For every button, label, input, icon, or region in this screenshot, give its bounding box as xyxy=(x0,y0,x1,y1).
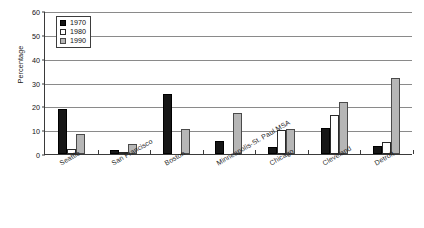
bar-chart: Percentage 0102030405060 197019801990 Se… xyxy=(0,0,424,228)
y-axis-title: Percentage xyxy=(16,20,25,110)
y-tick-label: 30 xyxy=(32,79,40,88)
bar-group xyxy=(203,12,256,154)
y-tick-label: 40 xyxy=(32,55,40,64)
legend-item[interactable]: 1970 xyxy=(60,19,86,27)
bar-1980 xyxy=(330,115,339,154)
legend-swatch-1990 xyxy=(60,38,66,44)
bar-group-bars xyxy=(203,12,256,154)
bar-1970 xyxy=(58,109,67,154)
y-tick-label: 50 xyxy=(32,31,40,40)
chart-legend: 197019801990 xyxy=(56,16,91,48)
legend-label-1970: 1970 xyxy=(70,19,86,27)
bar-1970 xyxy=(163,94,172,154)
bar-1970 xyxy=(215,141,224,154)
bar-group-bars xyxy=(360,12,413,154)
bar-1990 xyxy=(391,78,400,154)
legend-swatch-1970 xyxy=(60,20,66,26)
plot-area: 0102030405060 xyxy=(44,12,412,155)
bar-group-bars xyxy=(308,12,361,154)
y-tick-label: 0 xyxy=(36,151,40,160)
bar-1970 xyxy=(110,150,119,154)
legend-label-1980: 1980 xyxy=(70,28,86,36)
bar-group-bars xyxy=(150,12,203,154)
bar-group xyxy=(308,12,361,154)
y-tick-label: 10 xyxy=(32,127,40,136)
bar-group-bars xyxy=(98,12,151,154)
y-tick-label: 20 xyxy=(32,103,40,112)
x-tick-mark xyxy=(413,150,414,154)
bar-1970 xyxy=(321,128,330,154)
y-tick-label: 60 xyxy=(32,8,40,17)
legend-swatch-1980 xyxy=(60,29,66,35)
legend-item[interactable]: 1990 xyxy=(60,37,86,45)
legend-label-1990: 1990 xyxy=(70,37,86,45)
bar-group xyxy=(360,12,413,154)
bar-group xyxy=(98,12,151,154)
y-tick-mark xyxy=(42,155,45,156)
legend-item[interactable]: 1980 xyxy=(60,28,86,36)
bar-1970 xyxy=(268,147,277,154)
bar-group xyxy=(150,12,203,154)
bar-1970 xyxy=(373,146,382,154)
